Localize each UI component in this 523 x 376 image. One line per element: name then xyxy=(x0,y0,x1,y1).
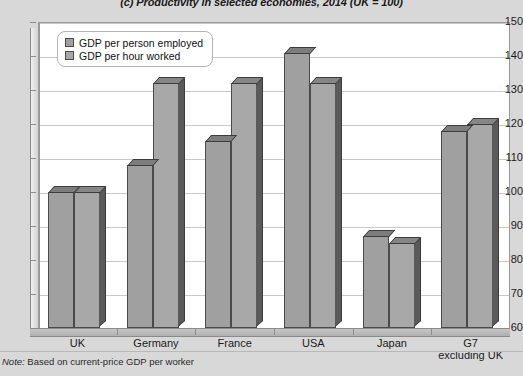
legend-item: GDP per hour worked xyxy=(65,49,203,62)
x-axis-tick xyxy=(274,328,275,335)
bar-g7-series-2 xyxy=(467,124,493,328)
x-axis-category-label: France xyxy=(195,337,274,349)
y-axis-tick-label: 150 xyxy=(493,15,523,27)
x-axis-tick xyxy=(117,328,118,335)
y-axis-tick xyxy=(30,124,36,125)
gridline xyxy=(40,159,509,160)
category-label-line1: Japan xyxy=(353,337,432,349)
note-prefix: Note: xyxy=(2,356,25,367)
y-axis-tick xyxy=(30,90,36,91)
legend-label-person-employed: GDP per person employed xyxy=(79,37,203,49)
bar-top-face xyxy=(389,237,421,244)
x-axis-tick xyxy=(195,328,196,335)
gridline xyxy=(40,125,509,126)
y-axis-tick xyxy=(30,226,36,227)
bar-usa-series-1 xyxy=(284,53,310,328)
bar-g7-series-1 xyxy=(441,131,467,328)
bar-germany-series-2 xyxy=(153,83,179,328)
chart-title: (c) Productivity in selected economies, … xyxy=(0,0,523,8)
note-divider xyxy=(0,351,523,352)
bar-top-face xyxy=(127,159,159,166)
bar-top-face xyxy=(363,230,395,237)
bar-side-face xyxy=(99,187,106,327)
gridline xyxy=(40,23,509,24)
y-axis-tick xyxy=(30,328,36,329)
chart-note: Note: Based on current-price GDP per wor… xyxy=(2,356,194,367)
gridline xyxy=(40,295,509,296)
chart-figure: (c) Productivity in selected economies, … xyxy=(0,0,523,376)
bar-top-face xyxy=(284,47,316,54)
x-axis-category-label: Japan xyxy=(353,337,432,349)
bar-usa-series-2 xyxy=(310,83,336,328)
bar-uk-series-2 xyxy=(74,192,100,328)
bar-side-face xyxy=(256,78,263,327)
x-axis-category-label: UK xyxy=(38,337,117,349)
y-axis-tick-label: 140 xyxy=(493,49,523,61)
y-axis-tick-label: 130 xyxy=(493,83,523,95)
y-axis-tick xyxy=(30,294,36,295)
axis-floor xyxy=(30,328,510,337)
y-axis-tick xyxy=(30,56,36,57)
bar-japan-series-2 xyxy=(389,243,415,328)
category-label-line1: G7 xyxy=(431,337,510,349)
note-text: Based on current-price GDP per worker xyxy=(27,356,194,367)
bar-france-series-1 xyxy=(205,141,231,328)
x-axis-tick xyxy=(431,328,432,335)
category-label-line1: UK xyxy=(38,337,117,349)
y-axis-tick xyxy=(30,158,36,159)
category-label-line1: USA xyxy=(274,337,353,349)
bar-japan-series-1 xyxy=(363,236,389,328)
legend-label-hour-worked: GDP per hour worked xyxy=(79,50,180,62)
x-axis-category-label: USA xyxy=(274,337,353,349)
bar-side-face xyxy=(492,119,499,327)
y-axis-tick xyxy=(30,22,36,23)
x-axis-category-label: Germany xyxy=(117,337,196,349)
category-label-line1: France xyxy=(195,337,274,349)
chart-legend: GDP per person employed GDP per hour wor… xyxy=(57,31,213,67)
gridline xyxy=(40,227,509,228)
x-axis-tick xyxy=(353,328,354,335)
legend-item: GDP per person employed xyxy=(65,36,203,49)
bar-uk-series-1 xyxy=(48,192,74,328)
bar-germany-series-1 xyxy=(127,165,153,328)
y-axis-tick-label: 60 xyxy=(493,321,523,333)
x-axis-category-label: G7excluding UK xyxy=(431,337,510,361)
bar-side-face xyxy=(414,238,421,327)
plot-area xyxy=(38,22,510,328)
gridline xyxy=(40,261,509,262)
bar-france-series-2 xyxy=(231,83,257,328)
legend-swatch-person-employed xyxy=(65,38,74,47)
y-axis-tick xyxy=(30,260,36,261)
category-label-line1: Germany xyxy=(117,337,196,349)
gridline xyxy=(40,193,509,194)
y-axis-tick xyxy=(30,192,36,193)
gridline xyxy=(40,91,509,92)
bar-side-face xyxy=(335,78,342,327)
legend-swatch-hour-worked xyxy=(65,51,74,60)
bar-side-face xyxy=(178,78,185,327)
